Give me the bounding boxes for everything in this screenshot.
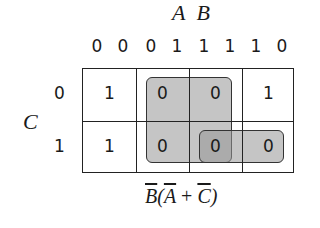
cell-r0-c3: 1 [242,83,295,103]
cell-r1-c2: 0 [189,136,242,156]
expr-a-complement: A [164,185,176,207]
cell-r1-c1: 0 [136,136,189,156]
row-code-1: 1 [54,136,65,156]
column-code-digit: 0 [275,36,289,56]
row-code-0: 0 [54,83,65,103]
expr-plus: + [176,185,197,207]
column-code-digit: 1 [249,36,263,56]
cell-r1-c3: 0 [242,136,295,156]
column-variable-label: A B [172,0,213,26]
column-code-digit: 0 [116,36,130,56]
simplified-expression: B(A + C) [145,185,217,208]
cell-r0-c2: 0 [189,83,242,103]
cell-r1-c0: 1 [83,136,136,156]
expr-c-complement: C [197,185,210,207]
column-code-digit: 1 [223,36,237,56]
expr-open-paren: ( [157,185,164,207]
column-code-digit: 0 [144,36,158,56]
column-code-digit: 0 [90,36,104,56]
grid-divider [82,121,294,122]
expr-close-paren: ) [211,185,218,207]
column-code-digit: 1 [197,36,211,56]
cell-r0-c1: 0 [136,83,189,103]
row-variable-label: C [23,109,38,135]
column-code-digit: 1 [170,36,184,56]
cell-r0-c0: 1 [83,83,136,103]
expr-b-complement: B [145,185,157,207]
